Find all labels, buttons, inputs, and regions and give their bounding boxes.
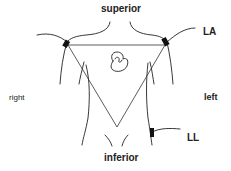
ll-electrode xyxy=(150,128,154,137)
groin-left xyxy=(122,135,128,146)
ra-lead-wire xyxy=(37,34,67,42)
torso-right xyxy=(82,65,89,145)
la-lead-wire xyxy=(167,28,195,42)
ll-label: LL xyxy=(187,133,199,143)
groin-right xyxy=(105,135,112,146)
left-arm-outer xyxy=(167,42,173,84)
einthoven-diagram xyxy=(0,0,231,171)
left-label: left xyxy=(204,93,218,102)
neck-left-outline xyxy=(130,22,167,42)
inferior-label: inferior xyxy=(104,153,138,163)
neck-right-outline xyxy=(67,22,110,42)
superior-label: superior xyxy=(101,4,141,14)
heart-inner-icon xyxy=(115,57,122,62)
right-arm-outer xyxy=(60,42,67,84)
right-label: right xyxy=(9,94,25,102)
la-label: LA xyxy=(203,27,216,37)
ll-lead-wire xyxy=(152,128,180,132)
